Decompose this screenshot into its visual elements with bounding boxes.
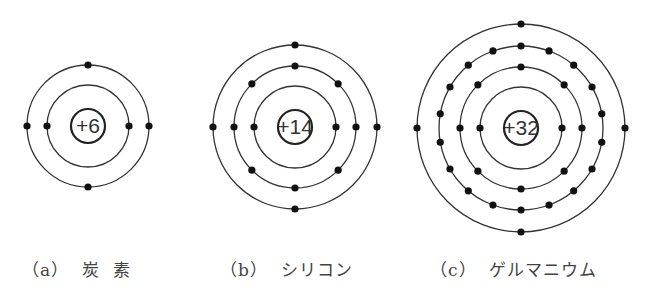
electron xyxy=(489,201,496,208)
electron xyxy=(291,184,298,191)
atom-germanium: +32 xyxy=(413,20,628,235)
electron xyxy=(335,80,342,87)
electron xyxy=(23,122,30,129)
electron xyxy=(465,62,472,69)
electron xyxy=(489,47,496,54)
electron xyxy=(413,124,420,131)
electron xyxy=(570,187,577,194)
electron xyxy=(517,228,524,235)
electron xyxy=(561,168,568,175)
electron xyxy=(248,167,255,174)
electron xyxy=(465,187,472,194)
electron xyxy=(446,165,453,172)
electron xyxy=(517,20,524,27)
electron xyxy=(474,81,481,88)
label-germanium: （c） ゲルマニウム xyxy=(430,256,597,281)
electron xyxy=(588,83,595,90)
electron xyxy=(517,185,524,192)
electron xyxy=(517,42,524,49)
electron xyxy=(570,62,577,69)
electron xyxy=(588,165,595,172)
electron xyxy=(335,167,342,174)
electron xyxy=(474,168,481,175)
electron xyxy=(517,206,524,213)
label-carbon: （a） 炭 素 xyxy=(22,256,131,281)
electron xyxy=(145,122,152,129)
electron xyxy=(125,122,132,129)
electron xyxy=(84,61,91,68)
electron xyxy=(291,62,298,69)
electron xyxy=(446,83,453,90)
electron xyxy=(291,41,298,48)
electron xyxy=(598,110,605,117)
electron xyxy=(545,47,552,54)
electron xyxy=(332,123,339,130)
nucleus-charge: +14 xyxy=(277,115,313,138)
electron xyxy=(621,124,628,131)
electron xyxy=(598,139,605,146)
label-silicon: （b） シリコン xyxy=(220,256,353,281)
atom-silicon: +14 xyxy=(209,41,380,212)
electron xyxy=(352,123,359,130)
electron xyxy=(558,124,565,131)
electron xyxy=(561,81,568,88)
electron xyxy=(476,124,483,131)
electron xyxy=(545,201,552,208)
electron xyxy=(250,123,257,130)
atom-carbon: +6 xyxy=(23,61,152,190)
electron xyxy=(230,123,237,130)
electron xyxy=(248,80,255,87)
electron xyxy=(437,139,444,146)
electron xyxy=(517,63,524,70)
electron xyxy=(209,123,216,130)
electron xyxy=(84,183,91,190)
nucleus-charge: +6 xyxy=(76,114,100,137)
electron xyxy=(456,124,463,131)
nucleus-charge: +32 xyxy=(503,116,539,139)
electron xyxy=(578,124,585,131)
electron xyxy=(437,110,444,117)
electron xyxy=(43,122,50,129)
electron xyxy=(373,123,380,130)
electron xyxy=(291,205,298,212)
